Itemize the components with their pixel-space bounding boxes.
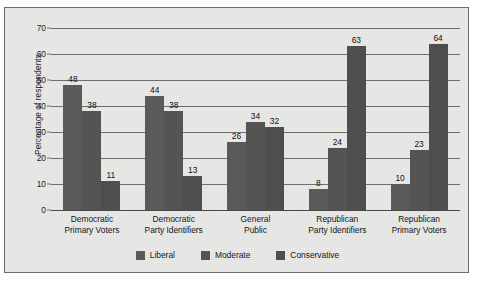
category-label-line: Republican xyxy=(378,214,460,225)
bar-chart-figure: Percentage of respondents 01020304050607… xyxy=(0,0,479,288)
bar-value-label: 23 xyxy=(414,139,423,149)
legend-label: Moderate xyxy=(215,250,250,260)
bar-group: 82463 xyxy=(309,28,366,210)
bar-moderate: 38 xyxy=(164,111,183,210)
bar-value-label: 44 xyxy=(150,85,159,95)
bar-conservative: 32 xyxy=(265,127,284,210)
x-axis-baseline xyxy=(51,210,460,211)
category-label: GeneralPublic xyxy=(215,214,297,237)
bar-conservative: 64 xyxy=(429,44,448,210)
bar-moderate: 23 xyxy=(410,150,429,210)
category-label: RepublicanPrimary Voters xyxy=(378,214,460,237)
category-label-line: Public xyxy=(215,225,297,236)
bar-value-label: 38 xyxy=(169,100,178,110)
category-label-line: Democratic xyxy=(51,214,133,225)
category-label: DemocraticPrimary Voters xyxy=(51,214,133,237)
category-label-line: Democratic xyxy=(133,214,215,225)
y-tick-label-40: 40 xyxy=(37,101,46,111)
y-tick-label-60: 60 xyxy=(37,49,46,59)
bar-conservative: 13 xyxy=(183,176,202,210)
legend-item-liberal: Liberal xyxy=(136,250,175,260)
y-tick-label-70: 70 xyxy=(37,23,46,33)
y-tick-label-0: 0 xyxy=(41,205,46,215)
bar-group: 483811 xyxy=(63,28,120,210)
y-tick-label-30: 30 xyxy=(37,127,46,137)
bar-liberal: 26 xyxy=(227,142,246,210)
x-axis-category-labels: DemocraticPrimary VotersDemocraticParty … xyxy=(51,214,460,246)
bar-liberal: 44 xyxy=(145,96,164,210)
bar-value-label: 48 xyxy=(68,74,77,84)
bar-liberal: 8 xyxy=(309,189,328,210)
chart-legend: LiberalModerateConservative xyxy=(5,250,470,260)
category-label-line: Party Identifiers xyxy=(133,225,215,236)
legend-label: Liberal xyxy=(150,250,175,260)
bar-value-label: 13 xyxy=(188,165,197,175)
legend-item-moderate: Moderate xyxy=(201,250,250,260)
bar-moderate: 38 xyxy=(82,111,101,210)
bars-layer: 48381144381326343282463102364 xyxy=(51,28,460,210)
bar-moderate: 34 xyxy=(246,122,265,210)
category-label: RepublicanParty Identifiers xyxy=(296,214,378,237)
bar-value-label: 11 xyxy=(107,170,116,180)
category-label-line: Primary Voters xyxy=(51,225,133,236)
y-tick-label-10: 10 xyxy=(37,179,46,189)
bar-liberal: 10 xyxy=(391,184,410,210)
legend-swatch-icon xyxy=(276,251,285,260)
category-label-line: Primary Voters xyxy=(378,225,460,236)
bar-group: 102364 xyxy=(391,28,448,210)
bar-value-label: 32 xyxy=(270,116,279,126)
bar-moderate: 24 xyxy=(328,148,347,210)
chart-panel: Percentage of respondents 01020304050607… xyxy=(4,7,469,273)
bar-value-label: 24 xyxy=(333,137,342,147)
bar-value-label: 8 xyxy=(316,178,321,188)
category-label: DemocraticParty Identifiers xyxy=(133,214,215,237)
bar-value-label: 26 xyxy=(232,131,241,141)
plot-area: 010203040506070 483811443813263432824631… xyxy=(51,28,460,210)
bar-group: 443813 xyxy=(145,28,202,210)
bar-value-label: 34 xyxy=(251,111,260,121)
bar-conservative: 11 xyxy=(101,181,120,210)
bar-conservative: 63 xyxy=(347,46,366,210)
legend-swatch-icon xyxy=(136,251,145,260)
legend-label: Conservative xyxy=(290,250,339,260)
category-label-line: General xyxy=(215,214,297,225)
legend-swatch-icon xyxy=(201,251,210,260)
bar-value-label: 10 xyxy=(395,173,404,183)
bar-value-label: 38 xyxy=(87,100,96,110)
category-label-line: Republican xyxy=(296,214,378,225)
y-tick-label-50: 50 xyxy=(37,75,46,85)
bar-value-label: 64 xyxy=(433,33,442,43)
legend-item-conservative: Conservative xyxy=(276,250,339,260)
bar-value-label: 63 xyxy=(352,35,361,45)
category-label-line: Party Identifiers xyxy=(296,225,378,236)
bar-group: 263432 xyxy=(227,28,284,210)
y-tick-label-20: 20 xyxy=(37,153,46,163)
bar-liberal: 48 xyxy=(63,85,82,210)
